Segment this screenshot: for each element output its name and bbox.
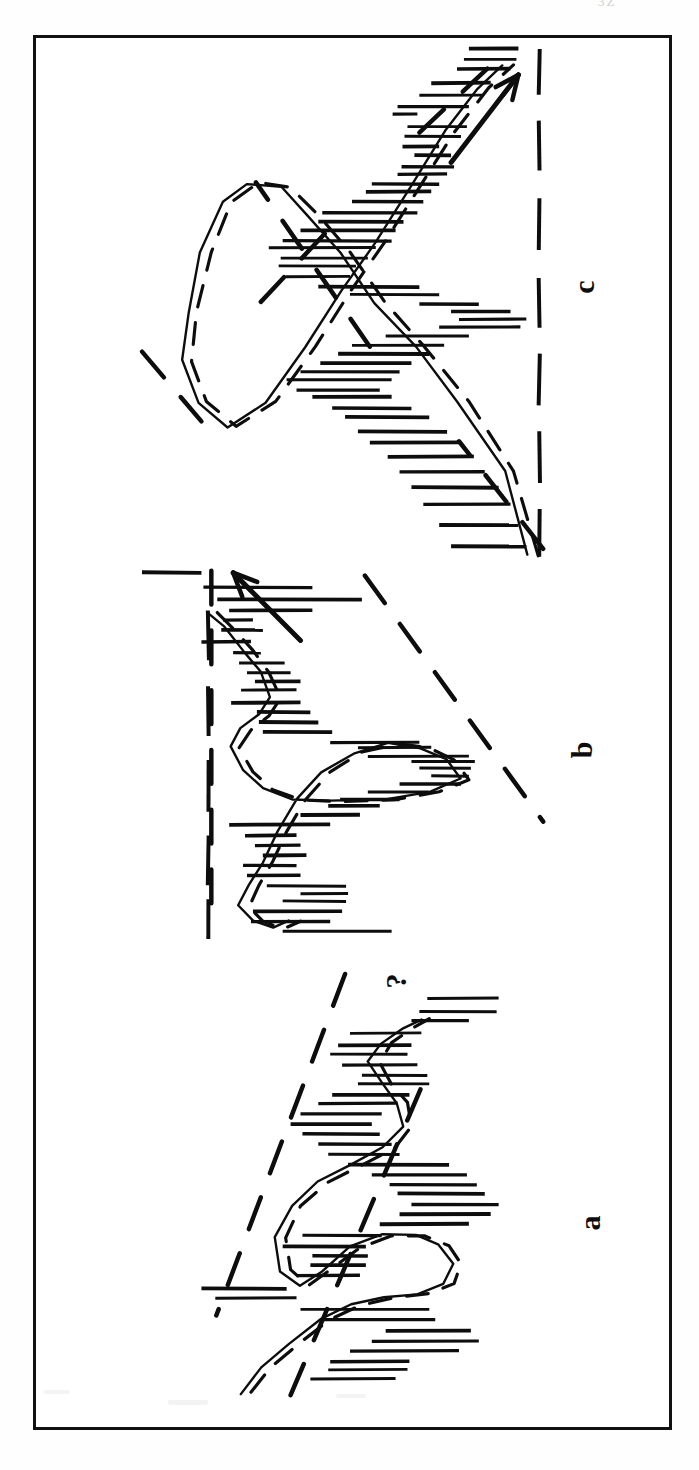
arrow-group [233,75,518,641]
spectral-tick [345,417,429,418]
spectral-tick [267,886,346,887]
spectral-tick [431,83,490,84]
axis-dash-segment [539,198,540,250]
envelope-dashed-line [256,182,370,346]
spectral-tick [283,901,346,902]
spectral-tick [427,998,498,999]
spectrum-baseline-trace [217,613,469,930]
axis-dash-segment [539,354,540,406]
scan-speckle [44,1390,70,1394]
spectral-tick [431,776,469,777]
axis-dash-segment [208,611,209,661]
spectral-tick [310,1378,395,1379]
spectral-tick [330,1361,409,1362]
spectral-tick [255,845,301,846]
spectral-tick [366,191,431,192]
spectral-tick [245,835,297,836]
spectral-tick [215,1298,296,1299]
scan-speckle [168,1400,208,1405]
scanned-page: 3Z c b a ? [0,0,699,1470]
spectral-tick [302,1134,379,1135]
scan-speckle [336,1394,366,1398]
panel-label-c: c [569,267,599,307]
spectral-tick [398,174,448,175]
envelope-dashed-line [291,1069,430,1396]
axis-dash-segment [539,49,540,95]
spectral-tick [380,1224,469,1225]
axis-dash-segment [208,836,209,886]
question-mark-annotation: ? [381,963,411,999]
panel-label-b: b [567,730,597,770]
axis-dash-segment [539,121,540,171]
axis-dash-segment [539,278,540,328]
axis-dash-segment [208,686,209,736]
spectral-tick [328,1369,407,1370]
spectral-tick [459,319,526,320]
page-header-scrap: 3Z [598,0,698,6]
spectral-tick [142,572,201,573]
panel-label-a: a [575,1203,605,1243]
spectral-tick [411,487,498,488]
spectral-tick [318,287,419,288]
trace-group [182,65,538,1394]
spectral-tick [332,408,411,409]
axis-dash-segment [539,431,540,483]
